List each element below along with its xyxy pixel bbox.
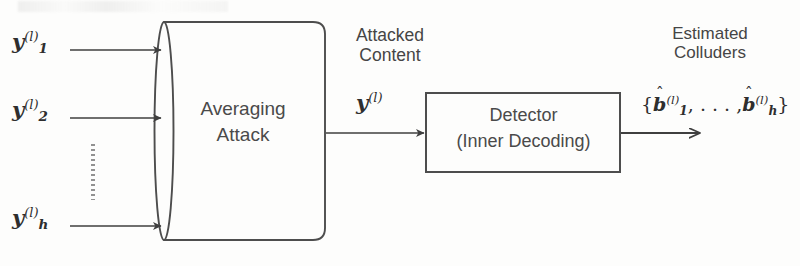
middle-signal-superscript: (l) [368,90,382,105]
colluder-first-superscript: (l) [666,93,679,107]
input-1-superscript: (l) [24,29,38,44]
cylinder-label-line1: Averaging [168,96,318,122]
input-h-superscript: (l) [24,205,38,220]
input-1-subscript: 1 [39,40,48,56]
attacked-content-caption: Attacked Content [340,26,440,65]
colluder-last-symbol: ˆb [742,94,755,115]
input-1-symbol: y [12,29,24,54]
detector-label-line2: (Inner Decoding) [427,129,620,155]
attacked-content-line1: Attacked [340,26,440,46]
estimated-colluders-caption: Estimated Colluders [648,24,772,62]
diagram-canvas: y(l)1 y(l)2 y(l)h Averaging Attack Attac… [0,0,800,266]
middle-signal-symbol: y [356,90,368,115]
input-2-symbol: y [12,97,24,122]
set-separator: , . . . , [688,93,742,115]
hat-accent-last: ˆ [745,86,753,102]
input-h-subscript: h [39,216,49,232]
attacked-content-symbol: y(l) [356,91,383,115]
colluder-first-symbol: ˆb [653,94,666,115]
input-label-2: y(l)2 [12,98,48,124]
attacked-content-line2: Content [340,46,440,66]
estimated-colluders-line2: Colluders [648,43,772,62]
input-label-h: y(l)h [12,206,48,232]
detector-label-line1: Detector [427,103,620,129]
cylinder-label-line2: Attack [168,122,318,148]
estimated-colluders-line1: Estimated [648,24,772,43]
input-label-1: y(l)1 [12,30,48,56]
colluder-first-subscript: 1 [679,104,687,118]
input-ellipsis [91,144,95,200]
input-2-subscript: 2 [39,108,48,124]
set-open-brace: { [641,93,653,115]
input-h-symbol: y [12,205,24,230]
input-2-superscript: (l) [24,97,38,112]
colluder-last-superscript: (l) [755,93,768,107]
cylinder-label: Averaging Attack [168,96,318,147]
colluder-last-subscript: h [768,104,777,118]
set-close-brace: } [777,93,789,115]
detector-label: Detector (Inner Decoding) [427,103,620,154]
estimated-colluders-set: {ˆb(l)1, . . . ,ˆb(l)h} [641,94,789,119]
hat-accent-first: ˆ [656,86,664,102]
